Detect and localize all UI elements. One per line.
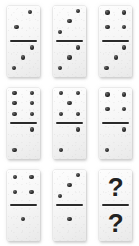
domino-tile[interactable] xyxy=(53,88,86,159)
domino-pip xyxy=(67,19,71,23)
domino-pip xyxy=(29,190,33,194)
domino-tile[interactable]: ?? xyxy=(99,170,132,241)
domino-pip xyxy=(76,9,80,13)
domino-tile[interactable] xyxy=(99,88,132,159)
domino-half-top xyxy=(7,88,40,123)
domino-pip xyxy=(122,10,126,14)
pip-group xyxy=(7,42,40,77)
domino-pip xyxy=(122,25,126,29)
pip-group xyxy=(7,206,40,241)
domino-tile[interactable] xyxy=(7,88,40,159)
domino-pip xyxy=(28,10,32,14)
pip-group xyxy=(53,6,86,41)
domino-puzzle: ?? xyxy=(0,0,139,246)
domino-half-bottom xyxy=(53,124,86,159)
domino-tile[interactable] xyxy=(53,6,86,77)
domino-half-bottom xyxy=(7,206,40,241)
pip-group xyxy=(53,124,86,159)
domino-half-top xyxy=(99,88,132,123)
question-mark-icon: ? xyxy=(99,206,132,241)
domino-half-bottom xyxy=(53,206,86,241)
domino-cell-row2-col1 xyxy=(0,82,46,164)
pip-group xyxy=(99,124,132,159)
domino-pip xyxy=(67,183,71,187)
domino-half-top xyxy=(99,6,132,41)
domino-half-bottom xyxy=(99,124,132,159)
domino-pip xyxy=(59,91,63,95)
domino-cell-row3-col1 xyxy=(0,164,46,246)
domino-cell-row3-col3: ?? xyxy=(93,164,139,246)
domino-tile[interactable] xyxy=(53,170,86,241)
domino-pip xyxy=(105,10,109,14)
pip-group xyxy=(7,170,40,205)
pip-group xyxy=(7,124,40,159)
domino-pip xyxy=(67,217,71,221)
domino-half-bottom xyxy=(53,42,86,77)
pip-group xyxy=(53,206,86,241)
domino-pip xyxy=(21,55,25,59)
domino-half-top xyxy=(53,6,86,41)
domino-tile[interactable] xyxy=(7,6,40,77)
domino-tile[interactable] xyxy=(7,170,40,241)
domino-pip xyxy=(122,45,126,49)
domino-pip xyxy=(104,66,108,70)
pip-group xyxy=(53,42,86,77)
domino-half-bottom xyxy=(7,42,40,77)
domino-half-bottom xyxy=(99,42,132,77)
domino-pip xyxy=(29,175,33,179)
domino-pip xyxy=(76,91,80,95)
domino-pip xyxy=(76,45,80,49)
pip-group xyxy=(99,42,132,77)
pip-group xyxy=(53,170,86,205)
domino-pip xyxy=(59,112,63,116)
domino-pip xyxy=(105,107,109,111)
domino-pip xyxy=(21,217,25,221)
domino-pip xyxy=(122,92,126,96)
domino-pip xyxy=(58,30,62,34)
domino-pip xyxy=(76,127,80,131)
domino-half-top xyxy=(53,88,86,123)
domino-pip xyxy=(76,112,80,116)
domino-pip xyxy=(105,25,109,29)
domino-half-bottom xyxy=(7,124,40,159)
domino-pip xyxy=(13,175,17,179)
domino-pip xyxy=(30,101,34,105)
domino-grid: ?? xyxy=(0,0,139,246)
pip-group xyxy=(99,6,132,41)
domino-cell-row1-col1 xyxy=(0,0,46,82)
pip-group xyxy=(99,88,132,123)
domino-pip xyxy=(13,190,17,194)
domino-pip xyxy=(67,55,71,59)
domino-half-bottom: ? xyxy=(99,206,132,241)
domino-pip xyxy=(12,91,16,95)
domino-cell-row3-col2 xyxy=(46,164,92,246)
domino-half-top: ? xyxy=(99,170,132,205)
domino-half-top xyxy=(7,170,40,205)
pip-group xyxy=(7,88,40,123)
domino-pip xyxy=(30,91,34,95)
domino-pip xyxy=(14,25,18,29)
domino-pip xyxy=(30,127,34,131)
domino-pip xyxy=(67,101,71,105)
domino-pip xyxy=(58,194,62,198)
domino-pip xyxy=(58,66,62,70)
domino-pip xyxy=(122,107,126,111)
domino-tile[interactable] xyxy=(99,6,132,77)
domino-pip xyxy=(105,148,109,152)
domino-pip xyxy=(30,112,34,116)
domino-pip xyxy=(122,127,126,131)
domino-pip xyxy=(76,173,80,177)
domino-cell-row1-col3 xyxy=(93,0,139,82)
pip-group xyxy=(53,88,86,123)
domino-half-top xyxy=(7,6,40,41)
domino-cell-row1-col2 xyxy=(46,0,92,82)
domino-cell-row2-col3 xyxy=(93,82,139,164)
domino-pip xyxy=(12,112,16,116)
domino-pip xyxy=(114,55,118,59)
question-mark-icon: ? xyxy=(99,170,132,205)
domino-cell-row2-col2 xyxy=(46,82,92,164)
domino-pip xyxy=(12,66,16,70)
pip-group xyxy=(7,6,40,41)
domino-pip xyxy=(12,101,16,105)
domino-pip xyxy=(105,92,109,96)
